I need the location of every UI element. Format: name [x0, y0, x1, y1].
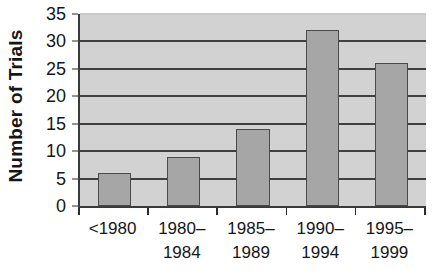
bar-chart: Number of Trials 05101520253035 <1980198…	[0, 0, 444, 279]
x-axis-tick-marks	[78, 208, 426, 215]
x-axis-tick-labels: <19801980– 19841985– 19891990– 19941995–…	[78, 217, 424, 275]
x-axis-tick-label: <1980	[78, 217, 147, 275]
x-axis-tick-label: 1980– 1984	[147, 217, 216, 275]
x-axis-tick-label: 1995– 1999	[355, 217, 424, 275]
x-axis-tick-mark	[216, 208, 218, 215]
x-axis-tick-label: 1985– 1989	[216, 217, 285, 275]
y-axis-tick-label: 35	[46, 5, 66, 23]
bar-slot	[149, 14, 218, 206]
y-axis-tick-label: 15	[46, 115, 66, 133]
x-axis-tick-mark	[355, 208, 357, 215]
bars-layer	[80, 14, 426, 206]
bar[interactable]	[167, 157, 200, 206]
bar[interactable]	[306, 30, 339, 206]
bar[interactable]	[98, 173, 131, 206]
bar-slot	[357, 14, 426, 206]
bar[interactable]	[236, 129, 269, 206]
y-axis-tick-label: 20	[46, 87, 66, 105]
x-axis-tick-mark	[147, 208, 149, 215]
bar-slot	[80, 14, 149, 206]
x-axis-tick-mark	[286, 208, 288, 215]
y-axis-title: Number of Trials	[0, 0, 32, 212]
x-axis-tick-mark	[424, 208, 426, 215]
bar[interactable]	[375, 63, 408, 206]
y-axis-tick-label: 10	[46, 142, 66, 160]
y-axis-tick-label: 5	[56, 170, 66, 188]
plot-area	[78, 14, 426, 208]
y-axis-tick-label: 0	[56, 197, 66, 215]
y-axis-tick-label: 25	[46, 60, 66, 78]
x-axis-tick-mark	[78, 208, 80, 215]
y-axis-tick-label: 30	[46, 32, 66, 50]
y-axis-title-text: Number of Trials	[5, 29, 27, 182]
x-axis-tick-label: 1990– 1994	[286, 217, 355, 275]
y-axis-tick-labels: 05101520253035	[32, 14, 72, 206]
bar-slot	[288, 14, 357, 206]
bar-slot	[218, 14, 287, 206]
